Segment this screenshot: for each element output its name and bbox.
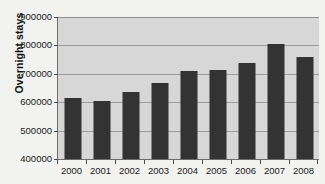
x-axis-tick-mark <box>289 160 290 164</box>
bar-2000 <box>64 98 81 159</box>
bar-2007 <box>267 44 284 159</box>
bar-2008 <box>296 57 313 159</box>
y-axis-tick-labels: 900000800000700000600000500000400000 <box>6 0 52 184</box>
x-axis-tick-mark <box>173 160 174 164</box>
y-axis-tick-label: 900000 <box>8 12 52 22</box>
y-axis-tick-label: 600000 <box>8 97 52 107</box>
bar-slot <box>203 17 232 159</box>
x-axis-tick-marks <box>57 160 318 164</box>
x-axis-tick-mark <box>260 160 261 164</box>
x-axis-tick-mark <box>57 160 58 164</box>
plot-area <box>57 17 319 160</box>
bar-2004 <box>180 71 197 159</box>
x-axis-tick-mark <box>317 160 318 164</box>
bar-slot <box>232 17 261 159</box>
y-axis-tick-label: 500000 <box>8 126 52 136</box>
x-axis-tick-mark <box>144 160 145 164</box>
x-axis-tick-mark <box>202 160 203 164</box>
x-axis-tick-mark <box>231 160 232 164</box>
bar-chart: Overnight stays 900000800000700000600000… <box>0 0 325 184</box>
y-axis-tick-label: 700000 <box>8 69 52 79</box>
bar-slot <box>58 17 87 159</box>
x-axis-tick-mark <box>86 160 87 164</box>
bar-series <box>58 17 319 159</box>
bar-2001 <box>93 101 110 159</box>
bar-slot <box>261 17 290 159</box>
bar-slot <box>145 17 174 159</box>
x-axis-tick-label: 2008 <box>284 166 324 176</box>
y-axis-tick-label: 400000 <box>8 154 52 164</box>
bar-slot <box>116 17 145 159</box>
bar-2005 <box>209 70 226 159</box>
x-axis-tick-labels: 200020012002200320042005200620072008 <box>57 166 318 180</box>
bar-2006 <box>238 63 255 159</box>
bar-2003 <box>151 83 168 159</box>
y-axis-tick-label: 800000 <box>8 40 52 50</box>
bar-slot <box>174 17 203 159</box>
x-axis-tick-mark <box>115 160 116 164</box>
bar-2002 <box>122 92 139 159</box>
bar-slot <box>87 17 116 159</box>
bar-slot <box>290 17 319 159</box>
